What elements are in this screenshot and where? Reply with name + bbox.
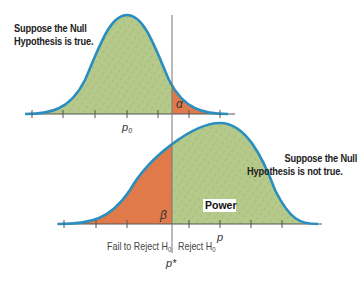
null-false-caption: Suppose the Null [276, 152, 363, 165]
null-true-caption: Suppose the Null Hypothesis is true. [14, 22, 93, 48]
caption-line: Suppose the Null [260, 152, 357, 165]
p-label: p [217, 231, 223, 244]
power-label: Power [205, 199, 237, 212]
fail-subscript: 0 [168, 246, 171, 253]
p-star-label: p* [166, 257, 176, 270]
caption-line: Hypothesis is not true. [247, 165, 343, 177]
reject-subscript: 0 [212, 246, 215, 253]
p0-label: p0 [122, 121, 132, 137]
beta-label: β [160, 209, 167, 222]
alpha-label: α [176, 98, 183, 111]
fail-to-reject-label: Fail to Reject H0 [107, 240, 171, 256]
caption-line: Suppose the Null [14, 22, 93, 35]
fail-text: Fail to Reject H [107, 240, 168, 252]
caption-line: Hypothesis is true. [14, 35, 93, 48]
null-false-caption-line2: Hypothesis is not true. [247, 165, 343, 178]
p-subscript: 0 [128, 127, 132, 134]
reject-text: Reject H [178, 240, 212, 252]
reject-label: Reject H0 [178, 240, 216, 256]
